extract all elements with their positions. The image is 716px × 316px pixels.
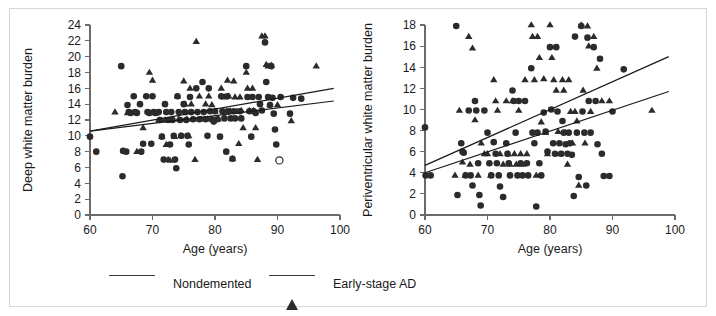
data-point-triangle xyxy=(471,116,478,122)
data-point-triangle xyxy=(205,92,212,98)
data-point-circle xyxy=(270,110,277,117)
data-point-circle xyxy=(600,173,607,180)
data-point-circle xyxy=(509,87,516,94)
data-point-triangle xyxy=(517,150,524,156)
data-point-circle xyxy=(500,194,507,201)
data-point-circle xyxy=(232,115,239,122)
panel-deep-white-matter: 02468101214161820222460708090100Age (yea… xyxy=(10,9,359,267)
data-point-triangle xyxy=(546,21,553,27)
data-point-triangle xyxy=(538,118,545,124)
data-point-circle xyxy=(205,85,212,92)
y-tick-label: 6 xyxy=(74,161,81,175)
data-point-triangle xyxy=(111,108,118,114)
data-point-triangle xyxy=(564,160,571,166)
x-tick-label: 90 xyxy=(606,223,620,237)
data-point-triangle xyxy=(494,107,501,113)
data-point-circle xyxy=(490,139,497,146)
x-tick-label: 70 xyxy=(146,223,160,237)
data-point-triangle xyxy=(511,150,518,156)
data-point-circle xyxy=(137,101,144,108)
y-tick-label: 22 xyxy=(68,34,82,48)
data-point-circle xyxy=(453,23,460,30)
data-point-triangle xyxy=(249,84,256,90)
y-tick-label: 14 xyxy=(68,97,82,111)
data-point-circle xyxy=(204,133,211,140)
data-point-triangle xyxy=(606,97,613,103)
data-point-circle xyxy=(507,172,514,179)
legend: Nondemented Early-stage AD xyxy=(10,267,708,308)
data-point-triangle xyxy=(536,54,543,60)
y-axis-title: Periventricular white matter burden xyxy=(361,23,375,217)
data-point-circle xyxy=(263,79,270,86)
data-point-triangle xyxy=(598,97,605,103)
y-tick-label: 24 xyxy=(68,18,82,32)
legend-line-icon xyxy=(109,275,155,276)
data-point-circle xyxy=(486,160,493,167)
data-point-circle xyxy=(497,183,504,190)
data-point-circle xyxy=(223,148,230,155)
data-point-triangle xyxy=(581,139,588,145)
data-point-circle xyxy=(522,98,529,105)
data-point-triangle xyxy=(540,75,547,81)
data-point-triangle xyxy=(553,87,560,93)
data-point-circle xyxy=(427,172,434,179)
data-point-circle xyxy=(512,129,519,136)
data-point-circle xyxy=(248,133,255,140)
y-tick-label: 8 xyxy=(74,145,81,159)
filled-triangle-icon xyxy=(286,282,298,300)
data-point-circle xyxy=(87,133,94,140)
figure-root: 02468101214161820222460708090100Age (yea… xyxy=(0,0,716,316)
data-point-circle xyxy=(476,192,483,199)
y-tick-label: 4 xyxy=(74,177,81,191)
y-tick-label: 8 xyxy=(409,124,416,138)
data-point-triangle xyxy=(456,107,463,113)
legend-item-nondemented: Nondemented xyxy=(105,271,252,301)
data-point-triangle xyxy=(239,124,246,130)
data-point-triangle xyxy=(534,33,541,39)
data-point-triangle xyxy=(469,44,476,50)
y-axis-title: Deep white matter burden xyxy=(21,48,35,192)
data-point-circle xyxy=(484,129,491,136)
data-point-circle xyxy=(531,140,538,147)
data-point-circle xyxy=(592,98,599,105)
data-point-circle xyxy=(175,109,182,116)
data-point-triangle xyxy=(313,62,320,68)
data-point-circle xyxy=(481,107,488,114)
data-point-triangle xyxy=(531,76,538,82)
data-point-triangle xyxy=(230,77,237,83)
data-point-circle xyxy=(569,152,576,159)
data-point-circle xyxy=(528,65,535,72)
data-point-circle xyxy=(574,129,581,136)
data-point-circle xyxy=(594,141,601,148)
data-point-triangle xyxy=(243,69,250,75)
data-point-circle xyxy=(148,140,155,147)
legend-line-icon xyxy=(269,275,315,276)
data-point-circle xyxy=(547,44,554,51)
data-point-circle xyxy=(143,93,150,100)
y-tick-label: 14 xyxy=(403,61,417,75)
y-tick-label: 4 xyxy=(409,166,416,180)
y-tick-label: 12 xyxy=(68,113,82,127)
data-point-circle xyxy=(559,118,566,125)
y-tick-label: 16 xyxy=(403,39,417,53)
data-point-triangle xyxy=(560,87,567,93)
data-point-circle xyxy=(193,85,200,92)
data-point-circle xyxy=(454,192,461,199)
data-point-circle xyxy=(124,102,131,109)
x-tick-label: 60 xyxy=(83,223,97,237)
data-point-circle xyxy=(553,44,560,51)
data-point-triangle xyxy=(188,100,195,106)
x-tick-label: 80 xyxy=(208,223,222,237)
data-point-triangle xyxy=(548,54,555,60)
x-tick-label: 70 xyxy=(481,223,495,237)
legend-item-early-stage-ad: Early-stage AD xyxy=(265,271,416,301)
data-point-triangle xyxy=(208,101,215,107)
data-point-triangle xyxy=(180,77,187,83)
data-point-circle xyxy=(93,148,100,155)
y-tick-label: 20 xyxy=(68,50,82,64)
data-point-triangle xyxy=(559,76,566,82)
data-point-triangle xyxy=(235,140,242,146)
data-point-circle xyxy=(475,160,482,167)
data-point-circle xyxy=(221,115,228,122)
data-point-circle xyxy=(572,33,579,40)
